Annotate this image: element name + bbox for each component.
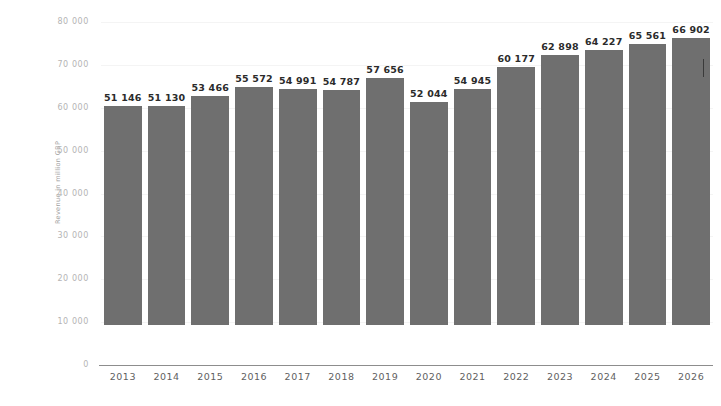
y-tick-label: 80 000 [0,17,89,27]
y-tick-label: 30 000 [0,231,89,241]
x-tick-label: 2024 [582,370,626,384]
bar-group[interactable]: 51 130 [145,0,189,325]
bar-group[interactable]: 54 945 [451,0,495,325]
x-tick-label: 2015 [188,370,232,384]
x-tick-label: 2025 [626,370,670,384]
bar[interactable] [191,96,229,325]
bar-group[interactable]: 54 787 [320,0,364,325]
bar[interactable] [672,38,710,325]
bar-group[interactable]: 65 561 [626,0,670,325]
bar-group[interactable]: 62 898 [538,0,582,325]
x-axis-tick-labels: 2013201420152016201720182019202020212022… [101,370,713,390]
x-tick-label: 2014 [145,370,189,384]
x-tick-label: 2013 [101,370,145,384]
bar[interactable] [279,89,317,325]
x-tick-label: 2019 [363,370,407,384]
bar[interactable] [629,44,667,325]
bar[interactable] [497,67,535,325]
bar[interactable] [148,106,186,325]
y-tick-label: 70 000 [0,60,89,70]
y-axis-tick-labels: 80 00070 00060 00050 00040 00030 00020 0… [0,0,105,406]
bar-group[interactable]: 55 572 [232,0,276,325]
bar-group[interactable]: 64 227 [582,0,626,325]
y-tick-label: 60 000 [0,103,89,113]
bar[interactable] [454,89,492,325]
x-tick-label: 2021 [451,370,495,384]
x-tick-label: 2018 [320,370,364,384]
x-tick-label: 2023 [538,370,582,384]
bar[interactable] [104,106,142,325]
bar[interactable] [585,50,623,325]
text-cursor-artifact [703,59,704,77]
bar[interactable] [410,102,448,325]
bar[interactable] [541,55,579,325]
y-tick-label: 50 000 [0,146,89,156]
bars-layer: 51 14651 13053 46655 57254 99154 78757 6… [101,0,713,366]
bar-group[interactable]: 52 044 [407,0,451,325]
bar-chart: Revenue in million GBP 80 00070 00060 00… [0,0,721,406]
y-tick-label: 20 000 [0,274,89,284]
bar-group[interactable]: 53 466 [188,0,232,325]
x-tick-label: 2020 [407,370,451,384]
y-tick-label: 40 000 [0,189,89,199]
x-tick-label: 2016 [232,370,276,384]
bar-value-label: 66 902 [660,24,721,35]
x-tick-label: 2022 [494,370,538,384]
bar-group[interactable]: 66 902 [669,0,713,325]
y-tick-label: 10 000 [0,317,89,327]
x-tick-label: 2026 [669,370,713,384]
bar[interactable] [323,90,361,325]
bar[interactable] [235,87,273,325]
bar-group[interactable]: 51 146 [101,0,145,325]
bar[interactable] [366,78,404,325]
bar-group[interactable]: 54 991 [276,0,320,325]
y-tick-label: 0 [0,360,89,370]
x-tick-label: 2017 [276,370,320,384]
bar-group[interactable]: 57 656 [363,0,407,325]
